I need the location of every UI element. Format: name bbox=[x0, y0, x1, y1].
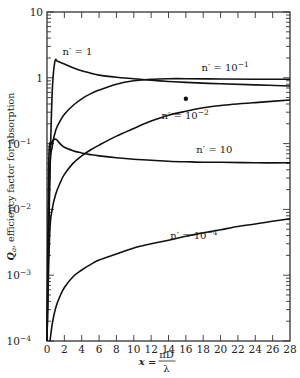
series-label: n′ = 10−1 bbox=[201, 60, 248, 73]
label-base: 10 bbox=[7, 335, 20, 347]
x-tick-label: 0 bbox=[44, 343, 51, 355]
label-exponent: −4 bbox=[20, 334, 31, 343]
y-axis-label-text: , efficiency factor for absorption bbox=[5, 93, 16, 248]
label-exponent: −3 bbox=[20, 268, 31, 277]
series-label: n′ = 10−2 bbox=[162, 108, 209, 121]
x-tick-label: 16 bbox=[179, 343, 193, 355]
series-label: n′ = 1 bbox=[63, 46, 93, 57]
plot-frame bbox=[47, 12, 290, 341]
x-tick-label: 18 bbox=[197, 343, 210, 355]
y-axis-label: Qa, efficiency factor for absorption bbox=[5, 93, 18, 261]
y-tick-label: 10−4 bbox=[7, 334, 32, 347]
y-tick-label: 10 bbox=[30, 6, 43, 18]
label-prefix: n′ = bbox=[201, 62, 224, 73]
axes bbox=[47, 12, 290, 341]
x-axis-label-denominator: λ bbox=[163, 363, 170, 374]
curve-n-10-2 bbox=[47, 100, 290, 341]
x-tick-label: 8 bbox=[113, 343, 120, 355]
curve-n-1 bbox=[47, 59, 290, 341]
label-base: 10 bbox=[30, 6, 43, 18]
label-exponent: −1 bbox=[20, 137, 31, 146]
x-axis-label-numerator: πD bbox=[159, 349, 174, 360]
label-prefix: n′ = bbox=[170, 230, 193, 241]
curves bbox=[47, 59, 290, 341]
label-exponent: −1 bbox=[238, 60, 249, 69]
data-point-marker bbox=[184, 97, 188, 101]
y-tick-label: 10−3 bbox=[7, 268, 32, 281]
ticks bbox=[47, 12, 290, 341]
label-exponent: −2 bbox=[20, 202, 31, 211]
x-tick-label: 10 bbox=[127, 343, 140, 355]
x-tick-label: 20 bbox=[214, 343, 227, 355]
label-base: 10 bbox=[225, 62, 238, 73]
x-tick-label: 6 bbox=[96, 343, 103, 355]
x-tick-label: 28 bbox=[283, 343, 296, 355]
label-base: 10 bbox=[185, 110, 198, 121]
x-tick-label: 24 bbox=[249, 343, 263, 355]
label-base: 1 bbox=[36, 72, 43, 84]
x-tick-label: 26 bbox=[266, 343, 280, 355]
series-label: n′ = 10−4 bbox=[170, 228, 217, 241]
label-base: 10 bbox=[7, 269, 20, 281]
series-label: n′ = 10 bbox=[196, 144, 232, 155]
label-base: 1 bbox=[86, 46, 92, 57]
label-exponent: −4 bbox=[206, 228, 217, 237]
label-prefix: n′ = bbox=[63, 46, 86, 57]
efficiency-chart: 024681012141618202224262810110−110−210−3… bbox=[0, 0, 300, 378]
x-tick-label: 4 bbox=[78, 343, 85, 355]
label-exponent: −2 bbox=[198, 108, 209, 117]
x-tick-label: 12 bbox=[144, 343, 157, 355]
y-tick-label: 1 bbox=[36, 72, 43, 84]
label-base: 10 bbox=[194, 230, 207, 241]
label-prefix: n′ = bbox=[196, 144, 219, 155]
x-tick-label: 2 bbox=[61, 343, 68, 355]
label-prefix: n′ = bbox=[162, 110, 185, 121]
x-tick-label: 22 bbox=[231, 343, 244, 355]
x-axis-label-var: x = bbox=[138, 356, 157, 367]
label-base: 10 bbox=[220, 144, 233, 155]
